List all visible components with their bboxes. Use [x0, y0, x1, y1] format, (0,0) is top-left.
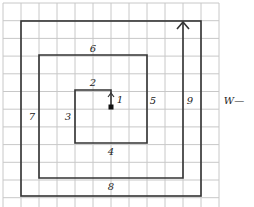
- segment-label-4: 4: [108, 147, 114, 157]
- start-point-marker: [109, 105, 114, 110]
- segment-label-1: 1: [117, 95, 123, 105]
- segment-label-2: 2: [90, 78, 96, 88]
- spiral-diagram: [0, 0, 254, 207]
- segment-label-8: 8: [108, 182, 114, 192]
- segment-label-9: 9: [187, 96, 193, 106]
- width-label: W—: [224, 96, 244, 106]
- segment-label-7: 7: [29, 112, 35, 122]
- segment-label-6: 6: [90, 44, 96, 54]
- segment-label-5: 5: [150, 96, 156, 106]
- segment-label-3: 3: [65, 112, 71, 122]
